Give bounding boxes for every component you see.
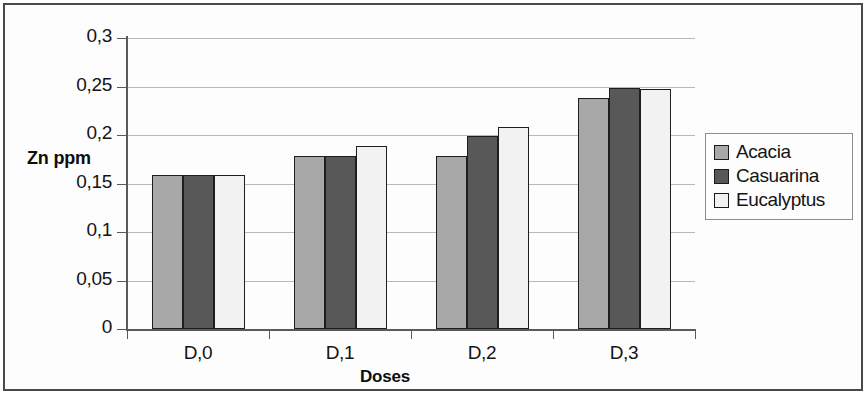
y-axis-title: Zn ppm bbox=[27, 148, 91, 169]
bar-group-D1 bbox=[269, 38, 411, 329]
legend-item-acacia[interactable]: Acacia bbox=[714, 140, 845, 164]
y-axis-tick bbox=[117, 38, 126, 39]
y-axis-tick bbox=[117, 281, 126, 282]
x-axis-tick bbox=[695, 331, 696, 339]
chart-legend: AcaciaCasuarinaEucalyptus bbox=[705, 133, 853, 220]
y-axis-tick bbox=[117, 135, 126, 136]
y-axis-tick-label: 0,2 bbox=[86, 122, 112, 144]
x-axis-tick-label: D,1 bbox=[269, 342, 411, 364]
legend-label: Eucalyptus bbox=[736, 189, 825, 211]
legend-swatch-icon bbox=[714, 193, 729, 208]
y-axis-tick-label: 0 bbox=[102, 316, 112, 338]
y-axis-tick-label: 0,25 bbox=[76, 74, 112, 96]
bar-acacia-D2 bbox=[436, 156, 467, 329]
legend-item-eucalyptus[interactable]: Eucalyptus bbox=[714, 188, 845, 212]
y-axis-tick bbox=[117, 184, 126, 185]
y-axis-line bbox=[126, 36, 128, 331]
bar-acacia-D3 bbox=[578, 98, 609, 329]
x-axis-tick bbox=[411, 331, 412, 339]
x-axis-tick bbox=[553, 331, 554, 339]
y-axis-tick-label: 0,1 bbox=[86, 219, 112, 241]
bar-group-D2 bbox=[411, 38, 553, 329]
legend-item-casuarina[interactable]: Casuarina bbox=[714, 164, 845, 188]
bar-group-D3 bbox=[553, 38, 695, 329]
x-axis-tick-label: D,0 bbox=[127, 342, 269, 364]
y-axis-tick-label: 0,15 bbox=[76, 171, 112, 193]
x-axis-tick-label: D,3 bbox=[553, 342, 695, 364]
bar-casuarina-D2 bbox=[467, 136, 498, 329]
bar-eucalyptus-D2 bbox=[498, 127, 529, 329]
bar-casuarina-D1 bbox=[325, 156, 356, 329]
bar-casuarina-D0 bbox=[183, 175, 214, 329]
plot-area bbox=[127, 38, 695, 329]
bar-eucalyptus-D3 bbox=[640, 89, 671, 329]
bar-group-D0 bbox=[127, 38, 269, 329]
x-axis-tick bbox=[127, 331, 128, 339]
legend-label: Casuarina bbox=[736, 165, 819, 187]
bar-eucalyptus-D0 bbox=[214, 175, 245, 329]
legend-label: Acacia bbox=[736, 141, 791, 163]
x-axis-title: Doses bbox=[360, 367, 410, 387]
x-axis-tick-label: D,2 bbox=[411, 342, 553, 364]
bar-casuarina-D3 bbox=[609, 88, 640, 329]
legend-swatch-icon bbox=[714, 145, 729, 160]
y-axis-tick bbox=[117, 329, 126, 330]
y-axis-tick-label: 0,3 bbox=[86, 25, 112, 47]
bar-acacia-D1 bbox=[294, 156, 325, 329]
legend-swatch-icon bbox=[714, 169, 729, 184]
y-axis-tick-labels: 00,050,10,150,20,250,3 bbox=[5, 5, 112, 408]
bar-acacia-D0 bbox=[152, 175, 183, 329]
y-axis-tick bbox=[117, 232, 126, 233]
x-axis-tick bbox=[269, 331, 270, 339]
bar-eucalyptus-D1 bbox=[356, 146, 387, 329]
y-axis-tick-label: 0,05 bbox=[76, 268, 112, 290]
chart-figure-frame: 00,050,10,150,20,250,3 Zn ppm D,0D,1D,2D… bbox=[3, 3, 863, 391]
y-axis-tick bbox=[117, 87, 126, 88]
